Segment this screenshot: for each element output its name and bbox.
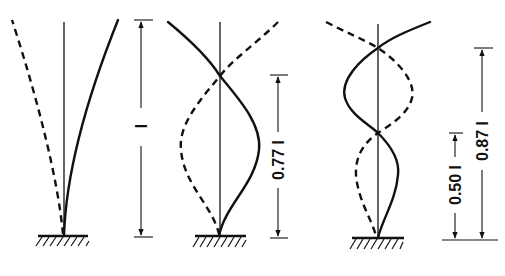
panel-mode-2: 0.77 l (168, 22, 288, 247)
label-l: l (133, 124, 150, 128)
label-0-50-l: 0.50 l (447, 165, 464, 205)
dimension-0-87-l: 0.87 l (474, 48, 493, 238)
ground-hatching (36, 237, 89, 246)
dashed-deflection-curve (12, 20, 63, 234)
ground-hatching (350, 239, 403, 249)
dimension-0-50-l: 0.50 l (447, 133, 464, 238)
label-0-77-l: 0.77 l (270, 140, 287, 180)
solid-deflection-curve (344, 22, 430, 238)
buckling-modes-diagram: l 0.77 l (0, 0, 505, 276)
label-0-87-l: 0.87 l (474, 121, 491, 161)
solid-deflection-curve (168, 22, 259, 236)
panel-mode-1: l (12, 20, 153, 246)
dashed-deflection-curve (181, 22, 278, 234)
dimension-length-l: l (133, 20, 153, 237)
dimension-0-77-l: 0.77 l (270, 75, 288, 238)
ground-hatching (193, 237, 246, 247)
panel-mode-3: 0.50 l 0.87 l (326, 22, 498, 249)
solid-deflection-curve (64, 20, 118, 236)
